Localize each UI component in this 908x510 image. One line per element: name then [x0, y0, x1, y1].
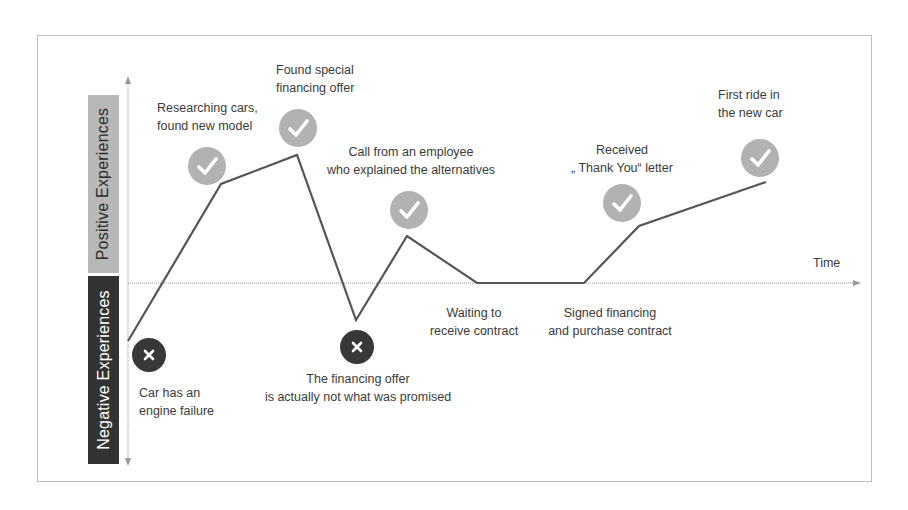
event-label-line: the new car — [718, 104, 783, 122]
event-label-line: who explained the alternatives — [327, 161, 495, 179]
event-label-line: Received — [571, 141, 673, 159]
event-label-line: is actually not what was promised — [265, 388, 451, 406]
event-label-offer-not-promised: The financing offer is actually not what… — [265, 370, 451, 406]
event-label-line: Call from an employee — [327, 143, 495, 161]
x-icon — [143, 349, 155, 361]
time-axis-label: Time — [813, 254, 840, 272]
check-icon — [287, 118, 309, 138]
event-label-line: „ Thank You“ letter — [571, 159, 673, 177]
positive-event-icon-researching — [188, 147, 226, 185]
event-label-line: The financing offer — [265, 370, 451, 388]
event-label-thank-you-letter: Received „ Thank You“ letter — [571, 141, 673, 177]
event-label-line: financing offer — [276, 79, 354, 97]
event-label-line: Found special — [276, 61, 354, 79]
event-label-engine-failure: Car has an engine failure — [139, 384, 214, 420]
positive-event-icon-employee-call — [390, 191, 428, 229]
negative-event-icon-offer-not-promised — [340, 330, 374, 364]
y-axis-arrow-down-icon — [125, 458, 131, 466]
check-icon — [196, 156, 218, 176]
event-label-employee-call: Call from an employee who explained the … — [327, 143, 495, 179]
positive-event-icon-thank-you-letter — [603, 184, 641, 222]
y-axis-arrow-up-icon — [125, 76, 131, 84]
x-axis-arrow-icon — [853, 280, 861, 286]
event-label-line: Car has an — [139, 384, 214, 402]
event-label-signed-contract: Signed financing and purchase contract — [548, 304, 672, 340]
event-label-line: receive contract — [430, 322, 518, 340]
event-label-first-ride: First ride in the new car — [718, 86, 783, 122]
negative-event-icon-engine-failure — [132, 338, 166, 372]
event-label-researching: Researching cars, found new model — [157, 99, 258, 135]
event-label-line: Signed financing — [548, 304, 672, 322]
journey-chart — [0, 0, 908, 510]
check-icon — [749, 148, 771, 168]
event-label-line: engine failure — [139, 402, 214, 420]
event-label-line: found new model — [157, 117, 258, 135]
positive-event-icon-first-ride — [741, 139, 779, 177]
event-label-financing-offer: Found special financing offer — [276, 61, 354, 97]
check-icon — [611, 193, 633, 213]
check-icon — [398, 200, 420, 220]
x-icon — [351, 341, 363, 353]
event-label-line: First ride in — [718, 86, 783, 104]
event-label-line: Waiting to — [430, 304, 518, 322]
event-label-line: Researching cars, — [157, 99, 258, 117]
positive-event-icon-financing-offer — [279, 109, 317, 147]
event-label-line: and purchase contract — [548, 322, 672, 340]
event-label-waiting-contract: Waiting to receive contract — [430, 304, 518, 340]
